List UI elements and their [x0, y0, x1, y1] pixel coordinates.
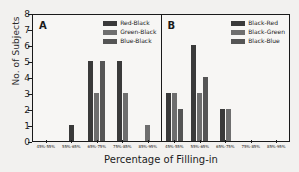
- x-tick-mark-75%-85%: [122, 140, 123, 143]
- bar-red-black-75%-85%: [117, 61, 122, 141]
- bar-black-red-45%-55%: [166, 93, 171, 141]
- panel-b-bars: [162, 15, 290, 141]
- y-tick-mark-0: [28, 142, 32, 143]
- bar-red-black-55%-65%: [69, 125, 74, 141]
- bar-black-blue-55%-65%: [203, 77, 208, 141]
- x-tick-mark-85%-95%: [148, 140, 149, 143]
- x-tick-label-45%-55%: 45%-55%: [165, 144, 184, 149]
- x-tick-mark-55%-65%: [200, 140, 201, 143]
- x-tick-label-75%-85%: 75%-85%: [241, 144, 260, 149]
- bar-black-red-55%-65%: [191, 45, 196, 141]
- bar-group-45%-55%: [163, 15, 185, 141]
- x-tick-mark-65%-75%: [97, 140, 98, 143]
- bar-red-black-65%-75%: [88, 61, 93, 141]
- x-tick-label-45%-55%: 45%-55%: [36, 144, 55, 149]
- bar-black-red-65%-75%: [220, 109, 225, 141]
- bar-green-black-65%-75%: [94, 93, 99, 141]
- panel-b: B Black-RedBlack-GreenBlack-Blue 45%-55%…: [161, 15, 290, 141]
- plot-frame: A Red-BlackGreen-BlackBlue-Black 45%-55%…: [32, 14, 290, 142]
- bar-group-55%-65%: [189, 15, 211, 141]
- x-tick-label-65%-75%: 65%-75%: [87, 144, 106, 149]
- x-tick-label-65%-75%: 65%-75%: [216, 144, 235, 149]
- bar-black-green-55%-65%: [197, 93, 202, 141]
- bar-group-75%-85%: [111, 15, 133, 141]
- bar-black-blue-45%-55%: [178, 109, 183, 141]
- x-tick-mark-75%-85%: [251, 140, 252, 143]
- bar-blue-black-65%-75%: [100, 61, 105, 141]
- bar-black-green-45%-55%: [172, 93, 177, 141]
- x-tick-label-85%-95%: 85%-95%: [138, 144, 157, 149]
- figure-bar-chart: No. of Subjects 012345678 A Red-BlackGre…: [0, 0, 299, 172]
- x-tick-mark-85%-95%: [276, 140, 277, 143]
- x-tick-label-85%-95%: 85%-95%: [267, 144, 286, 149]
- bar-group-65%-75%: [214, 15, 236, 141]
- panel-a-bars: [33, 15, 161, 141]
- x-tick-label-55%-65%: 55%-65%: [190, 144, 209, 149]
- x-tick-label-75%-85%: 75%-85%: [113, 144, 132, 149]
- x-tick-mark-45%-55%: [46, 140, 47, 143]
- x-tick-mark-65%-75%: [225, 140, 226, 143]
- bar-green-black-75%-85%: [123, 93, 128, 141]
- bar-group-85%-95%: [137, 15, 159, 141]
- x-tick-mark-45%-55%: [174, 140, 175, 143]
- bar-green-black-85%-95%: [145, 125, 150, 141]
- bar-group-55%-65%: [60, 15, 82, 141]
- bar-group-65%-75%: [86, 15, 108, 141]
- panel-a: A Red-BlackGreen-BlackBlue-Black 45%-55%…: [33, 15, 161, 141]
- bar-black-green-65%-75%: [226, 109, 231, 141]
- x-tick-label-55%-65%: 55%-65%: [62, 144, 81, 149]
- x-tick-mark-55%-65%: [71, 140, 72, 143]
- x-axis-label: Percentage of Filling-in: [32, 154, 290, 165]
